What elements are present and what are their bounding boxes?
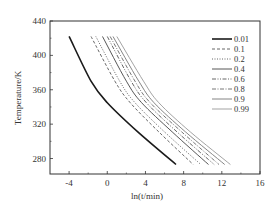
x-tick-label: 0	[105, 178, 110, 188]
legend-label: 0.99	[234, 104, 249, 114]
x-tick-label: 8	[181, 178, 186, 188]
series-0_6-line	[107, 36, 214, 164]
legend: 0.010.10.20.40.60.80.90.99	[212, 34, 249, 114]
x-tick-label: 16	[256, 178, 266, 188]
x-tick-label: -4	[65, 178, 73, 188]
plot-frame	[50, 21, 260, 174]
legend-label: 0.2	[234, 54, 245, 64]
x-tick-label: 12	[217, 178, 226, 188]
plot-border	[50, 21, 260, 174]
legend-label: 0.6	[234, 74, 245, 84]
legend-label: 0.8	[234, 84, 245, 94]
series-0_1-line	[91, 36, 193, 164]
y-axis-label: Temperature/K	[13, 70, 23, 125]
y-tick-label: 320	[33, 119, 47, 129]
series-0_01-line	[69, 36, 176, 164]
legend-label: 0.4	[234, 64, 245, 74]
chart: -40481216280320360400440 0.010.10.20.40.…	[0, 0, 276, 217]
y-tick-label: 360	[33, 85, 47, 95]
data-series	[69, 36, 230, 164]
legend-label: 0.01	[234, 34, 249, 44]
y-tick-label: 440	[33, 16, 47, 26]
x-tick-label: 4	[143, 178, 148, 188]
legend-label: 0.1	[234, 44, 245, 54]
series-0_99-line	[117, 36, 231, 164]
legend-label: 0.9	[234, 94, 245, 104]
series-0_9-line	[113, 36, 225, 164]
series-0_8-line	[110, 36, 219, 164]
y-tick-label: 280	[33, 154, 47, 164]
x-axis-label: ln(t/min)	[131, 191, 163, 201]
y-tick-label: 400	[33, 50, 47, 60]
axis-ticks: -40481216280320360400440	[33, 16, 266, 188]
